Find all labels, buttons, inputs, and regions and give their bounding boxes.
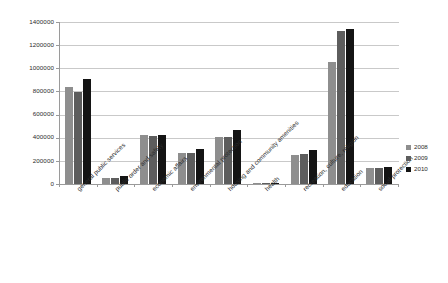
bar-2008 [102, 178, 110, 184]
x-tick-mark [59, 184, 60, 187]
x-tick-mark [323, 184, 324, 187]
bar-2009 [300, 154, 308, 184]
bar-2008 [366, 168, 374, 184]
legend-item-2009: 2009 [406, 153, 446, 164]
legend-label: 2009 [414, 155, 428, 161]
legend-item-2010: 2010 [406, 164, 446, 175]
x-tick-mark [360, 184, 361, 187]
y-tick-label: 200000 [4, 158, 54, 164]
bar-2008 [291, 155, 299, 184]
legend-item-2008: 2008 [406, 142, 446, 153]
y-tick-label: 400000 [4, 134, 54, 140]
y-tick-label: 1400000 [4, 19, 54, 25]
bar-2009 [337, 31, 345, 184]
x-tick-mark [97, 184, 98, 187]
bar-2010 [83, 79, 91, 184]
bar-group [59, 22, 97, 184]
legend-label: 2008 [414, 144, 428, 150]
chart-legend: 2008 2009 2010 [406, 142, 446, 175]
bar-group [360, 22, 398, 184]
x-tick-mark [172, 184, 173, 187]
bar-group [285, 22, 323, 184]
legend-swatch-icon [406, 156, 411, 161]
legend-label: 2010 [414, 166, 428, 172]
bar-chart: 1400000 1200000 1000000 800000 600000 40… [0, 0, 448, 283]
x-tick-mark [398, 184, 399, 187]
y-tick-label: 1200000 [4, 42, 54, 48]
bar-2010 [346, 29, 354, 184]
bar-2008 [253, 183, 261, 184]
bar-2008 [65, 87, 73, 184]
bar-2009 [74, 92, 82, 184]
x-tick-mark [134, 184, 135, 187]
y-tick-label: 0 [4, 181, 54, 187]
y-tick-label: 600000 [4, 111, 54, 117]
legend-swatch-icon [406, 145, 411, 150]
x-tick-mark [285, 184, 286, 187]
x-tick-mark [210, 184, 211, 187]
bar-2009 [187, 153, 195, 184]
legend-swatch-icon [406, 167, 411, 172]
y-tick-label: 800000 [4, 88, 54, 94]
x-tick-mark [247, 184, 248, 187]
y-tick-label: 1000000 [4, 65, 54, 71]
